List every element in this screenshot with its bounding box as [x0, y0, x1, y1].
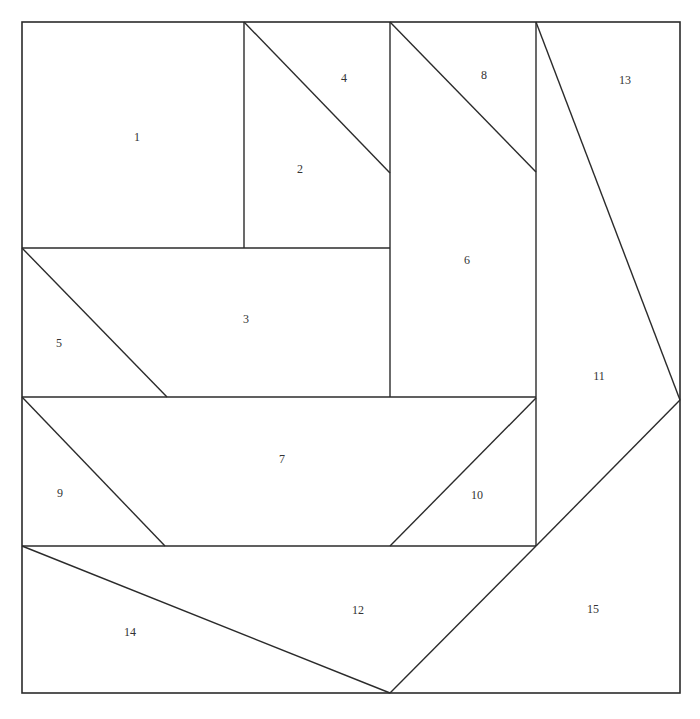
piece-label-1: 1	[134, 130, 140, 144]
quilt-block-diagram: 1 2 3 4 5 6 7 8 9 10 11 12 13 14 15	[0, 0, 700, 719]
piece-label-2: 2	[297, 162, 303, 176]
piece-label-5: 5	[56, 336, 62, 350]
piece-label-15: 15	[587, 602, 599, 616]
piece-label-13: 13	[619, 73, 631, 87]
piece-label-7: 7	[279, 452, 285, 466]
piece-label-9: 9	[57, 486, 63, 500]
piece-label-14: 14	[124, 625, 136, 639]
piece-label-6: 6	[464, 253, 470, 267]
outer-frame	[22, 22, 680, 693]
piece-label-12: 12	[352, 603, 364, 617]
piece-label-3: 3	[243, 312, 249, 326]
piece-label-8: 8	[481, 68, 487, 82]
piece-label-10: 10	[471, 488, 483, 502]
piece-label-4: 4	[341, 71, 347, 85]
piece-label-11: 11	[593, 369, 605, 383]
